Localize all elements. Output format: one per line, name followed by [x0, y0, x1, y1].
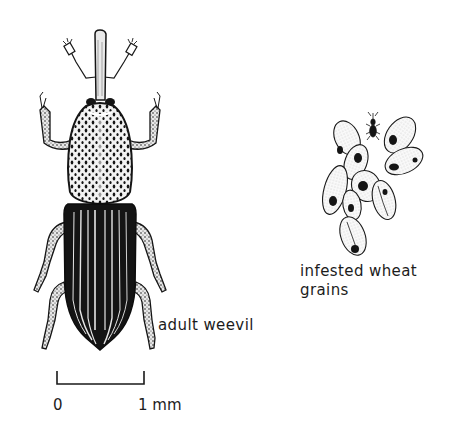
- adult-weevil-drawing: [34, 30, 166, 350]
- infested-grains-label: infested wheat grains: [300, 262, 417, 300]
- weevil-illustration-figure: adult weevil infested wheat grains 0 1 m…: [0, 0, 456, 432]
- infested-grains-label-line-2: grains: [300, 281, 417, 300]
- scale-bar: [57, 371, 144, 384]
- small-weevil: [366, 112, 380, 140]
- infested-grains-label-line-1: infested wheat: [300, 262, 417, 281]
- elytra: [64, 204, 136, 350]
- scale-bar-start-label: 0: [53, 396, 63, 414]
- scale-bar-end-label: 1 mm: [138, 396, 182, 414]
- wheat-grain: [335, 213, 371, 259]
- infested-grains-drawing: [318, 111, 427, 259]
- illustration-canvas: [0, 0, 456, 432]
- adult-weevil-label: adult weevil: [158, 316, 254, 335]
- rostrum: [95, 30, 106, 100]
